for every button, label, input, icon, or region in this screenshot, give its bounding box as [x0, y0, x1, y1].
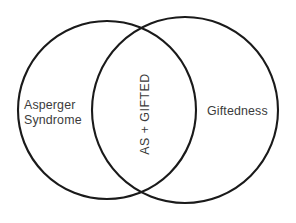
label-asperger-syndrome-line1: Asperger	[24, 98, 75, 112]
label-asperger-syndrome: AspergerSyndrome	[24, 98, 94, 127]
label-as-plus-gifted: AS + GIFTED	[138, 73, 152, 155]
venn-diagram-figure: AspergerSyndrome Giftedness AS + GIFTED	[0, 0, 296, 223]
label-giftedness: Giftedness	[207, 104, 279, 119]
label-asperger-syndrome-line2: Syndrome	[24, 113, 82, 127]
